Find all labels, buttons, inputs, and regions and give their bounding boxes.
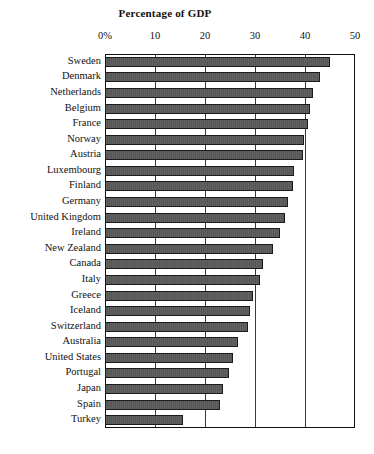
category-label-greece: Greece: [0, 289, 101, 300]
category-label-new-zealand: New Zealand: [0, 242, 101, 253]
category-label-germany: Germany: [0, 195, 101, 206]
bar-fill: [106, 58, 329, 66]
bar-fill: [106, 369, 228, 377]
x-tick-20: 20: [200, 30, 211, 41]
category-label-ireland: Ireland: [0, 226, 101, 237]
bar-fill: [106, 151, 302, 159]
bar-fill: [106, 229, 279, 237]
bar-switzerland: [105, 322, 248, 332]
bar-new-zealand: [105, 244, 273, 254]
bar-fill: [106, 136, 303, 144]
bar-france: [105, 119, 308, 129]
x-tick-10: 10: [150, 30, 161, 41]
category-label-switzerland: Switzerland: [0, 320, 101, 331]
bar-italy: [105, 275, 260, 285]
bar-fill: [106, 214, 284, 222]
x-tick-40: 40: [300, 30, 311, 41]
bar-canada: [105, 259, 263, 269]
bar-finland: [105, 181, 293, 191]
bar-united-kingdom: [105, 213, 285, 223]
category-label-united-states: United States: [0, 351, 101, 362]
bar-netherlands: [105, 88, 313, 98]
bar-greece: [105, 291, 253, 301]
category-label-finland: Finland: [0, 179, 101, 190]
bar-ireland: [105, 228, 280, 238]
bar-australia: [105, 337, 238, 347]
category-label-belgium: Belgium: [0, 102, 101, 113]
bar-rows: SwedenDenmarkNetherlandsBelgiumFranceNor…: [0, 54, 374, 428]
bar-fill: [106, 89, 312, 97]
category-label-portugal: Portugal: [0, 366, 101, 377]
category-label-netherlands: Netherlands: [0, 86, 101, 97]
bar-fill: [106, 198, 287, 206]
x-axis-tick-labels: 0%1020304050: [0, 30, 374, 44]
chart-title: Percentage of GDP: [0, 7, 374, 19]
bar-iceland: [105, 306, 250, 316]
category-label-austria: Austria: [0, 148, 101, 159]
bar-fill: [106, 416, 182, 424]
category-label-italy: Italy: [0, 273, 101, 284]
category-label-australia: Australia: [0, 335, 101, 346]
bar-fill: [106, 105, 309, 113]
category-label-denmark: Denmark: [0, 70, 101, 81]
category-label-spain: Spain: [0, 398, 101, 409]
category-label-iceland: Iceland: [0, 304, 101, 315]
x-tick-50: 50: [350, 30, 361, 41]
bar-fill: [106, 323, 247, 331]
category-label-canada: Canada: [0, 257, 101, 268]
category-label-luxembourg: Luxembourg: [0, 164, 101, 175]
bar-fill: [106, 120, 307, 128]
bar-denmark: [105, 72, 320, 82]
bar-norway: [105, 135, 304, 145]
x-tick-0: 0%: [98, 30, 112, 41]
bar-portugal: [105, 368, 229, 378]
category-label-turkey: Turkey: [0, 413, 101, 424]
category-label-japan: Japan: [0, 382, 101, 393]
bar-fill: [106, 307, 249, 315]
category-label-united-kingdom: United Kingdom: [0, 211, 101, 222]
x-tick-30: 30: [250, 30, 261, 41]
bar-fill: [106, 245, 272, 253]
bar-fill: [106, 401, 219, 409]
bar-united-states: [105, 353, 233, 363]
bar-fill: [106, 182, 292, 190]
bar-fill: [106, 338, 237, 346]
bar-austria: [105, 150, 303, 160]
bar-fill: [106, 292, 252, 300]
category-label-sweden: Sweden: [0, 55, 101, 66]
bar-turkey: [105, 415, 183, 425]
bar-chart: Percentage of GDP 0%1020304050 SwedenDen…: [0, 0, 374, 454]
bar-germany: [105, 197, 288, 207]
bar-spain: [105, 400, 220, 410]
bar-luxembourg: [105, 166, 294, 176]
bar-belgium: [105, 104, 310, 114]
bar-fill: [106, 385, 222, 393]
bar-sweden: [105, 57, 330, 67]
bar-fill: [106, 73, 319, 81]
bar-fill: [106, 276, 259, 284]
bar-fill: [106, 354, 232, 362]
category-label-france: France: [0, 117, 101, 128]
bar-japan: [105, 384, 223, 394]
category-label-norway: Norway: [0, 133, 101, 144]
bar-fill: [106, 167, 293, 175]
bar-fill: [106, 260, 262, 268]
